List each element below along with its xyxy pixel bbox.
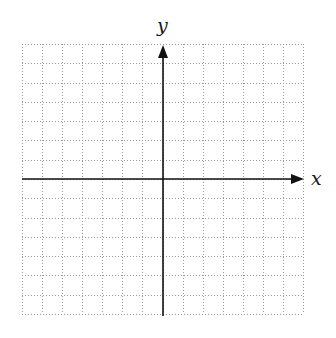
y-axis-label: y: [156, 14, 168, 36]
x-axis-label: x: [311, 167, 322, 189]
coordinate-plane: x y: [0, 0, 336, 338]
x-axis-arrow-icon: [291, 174, 304, 184]
y-axis-arrow-icon: [158, 45, 168, 58]
